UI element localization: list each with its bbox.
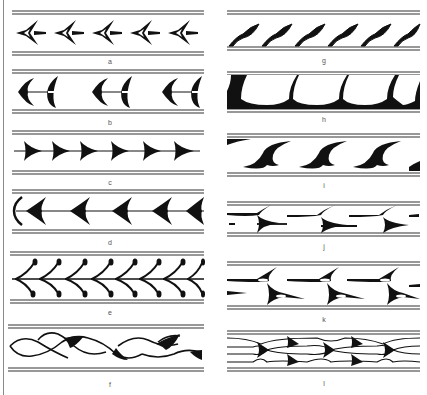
panel-label-a: a xyxy=(100,58,120,65)
pattern-panel-g xyxy=(227,10,420,52)
page-edge-line xyxy=(3,0,4,395)
interlaced-wave-pattern xyxy=(8,324,204,373)
hook-scroll-pattern xyxy=(227,133,420,178)
panel-label-l: l xyxy=(314,380,334,387)
pattern-panel-j xyxy=(227,201,420,238)
pattern-panel-c xyxy=(12,130,204,175)
panel-label-c: c xyxy=(100,179,120,186)
pattern-panel-h xyxy=(227,71,420,114)
pattern-panel-d xyxy=(12,189,204,234)
pattern-panel-a xyxy=(12,10,204,57)
panel-label-h: h xyxy=(314,116,334,123)
triangle-chain-pattern xyxy=(12,130,204,175)
slanted-flag-pattern xyxy=(227,10,420,52)
panel-label-d: d xyxy=(100,239,120,246)
panel-label-g: g xyxy=(314,57,334,64)
panel-label-e: e xyxy=(100,309,120,316)
pattern-panel-i xyxy=(227,133,420,178)
pattern-panel-k xyxy=(227,261,420,311)
braided-wedge-pattern xyxy=(227,330,420,373)
double-split-wedge-pattern xyxy=(227,261,420,311)
pattern-panel-b xyxy=(12,69,204,114)
crescent-arrow-pattern xyxy=(12,69,204,114)
panel-label-k: k xyxy=(314,316,334,323)
panel-label-j: j xyxy=(314,243,334,250)
panel-label-b: b xyxy=(100,119,120,126)
pattern-panel-l xyxy=(227,330,420,373)
panel-label-f: f xyxy=(100,381,120,388)
leaf-scroll-pattern xyxy=(10,251,204,305)
panel-label-i: i xyxy=(314,182,334,189)
pattern-panel-f xyxy=(8,324,204,373)
scalloped-arch-pattern xyxy=(227,71,420,114)
arrowhead-outlined-pattern xyxy=(12,10,204,57)
barbed-arrow-chain-pattern xyxy=(12,189,204,234)
split-wedge-pattern xyxy=(227,201,420,238)
pattern-panel-e xyxy=(10,251,204,305)
